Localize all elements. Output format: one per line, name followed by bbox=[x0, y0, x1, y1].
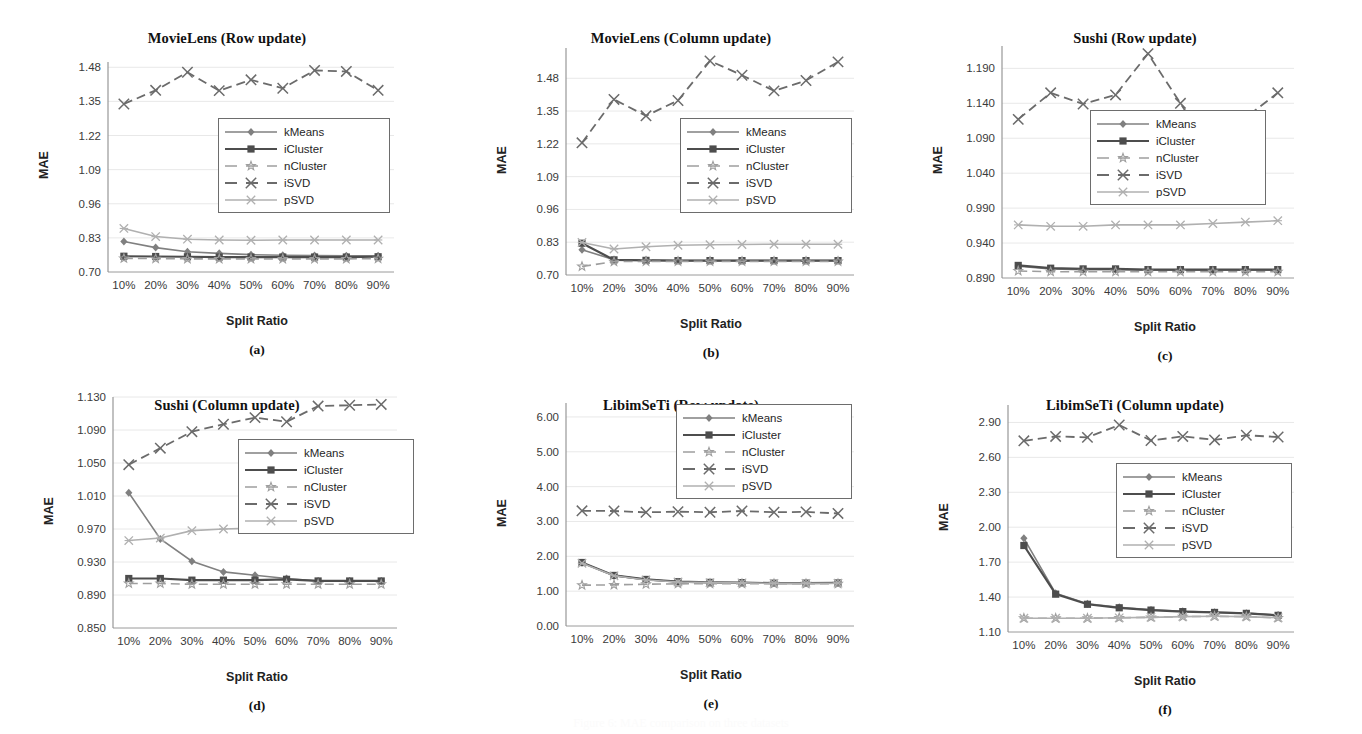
legend-label-kMeans: kMeans bbox=[737, 412, 782, 424]
y-tick-label: 1.48 bbox=[79, 61, 101, 73]
legend-d[interactable]: kMeansiClusternClusteriSVDpSVD bbox=[238, 439, 414, 534]
legend-item-pSVD[interactable]: pSVD bbox=[1095, 183, 1258, 200]
legend-item-kMeans[interactable]: kMeans bbox=[223, 123, 382, 140]
panel-letter-d: (d) bbox=[60, 698, 454, 714]
series-line-nCluster bbox=[129, 583, 381, 584]
legend-label-kMeans: kMeans bbox=[741, 126, 786, 138]
legend-item-iCluster[interactable]: iCluster bbox=[685, 140, 844, 157]
legend-item-iSVD[interactable]: iSVD bbox=[223, 174, 382, 191]
y-tick-label: 2.00 bbox=[979, 521, 1001, 533]
data-point-xbox-marker bbox=[1119, 187, 1127, 195]
legend-item-iSVD[interactable]: iSVD bbox=[685, 174, 844, 191]
data-point-square-marker bbox=[705, 431, 712, 438]
data-point-cross-marker bbox=[705, 56, 715, 66]
x-tick-label: 40% bbox=[208, 279, 231, 291]
legend-label-pSVD: pSVD bbox=[279, 194, 314, 206]
legend-swatch-nCluster-icon bbox=[681, 445, 737, 459]
legend-swatch-nCluster-icon bbox=[685, 159, 741, 173]
data-point-cross-marker bbox=[124, 459, 134, 469]
data-point-xbox-marker bbox=[738, 240, 746, 248]
data-point-xbox-marker bbox=[802, 240, 810, 248]
legend-item-iSVD[interactable]: iSVD bbox=[243, 495, 406, 512]
legend-item-iSVD[interactable]: iSVD bbox=[1121, 519, 1284, 536]
series-line-iSVD bbox=[124, 70, 378, 104]
legend-item-nCluster[interactable]: nCluster bbox=[223, 157, 382, 174]
legend-c[interactable]: kMeansiClusternClusteriSVDpSVD bbox=[1090, 110, 1266, 205]
legend-item-pSVD[interactable]: pSVD bbox=[223, 191, 382, 208]
legend-swatch-iSVD-icon bbox=[1121, 521, 1177, 535]
legend-item-iCluster[interactable]: iCluster bbox=[1121, 485, 1284, 502]
data-point-xbox-marker bbox=[1079, 222, 1087, 230]
legend-swatch-kMeans-icon bbox=[1121, 470, 1177, 484]
legend-item-nCluster[interactable]: nCluster bbox=[243, 478, 406, 495]
legend-item-iCluster[interactable]: iCluster bbox=[681, 426, 844, 443]
legend-swatch-kMeans-icon bbox=[223, 125, 279, 139]
legend-swatch-iSVD-icon bbox=[681, 462, 737, 476]
y-tick-label: 0.890 bbox=[77, 589, 106, 601]
data-point-cross-marker bbox=[1146, 435, 1156, 445]
chart-title-a: MovieLens (Row update) bbox=[0, 30, 454, 47]
data-point-xbox-marker bbox=[1115, 614, 1123, 622]
legend-item-iCluster[interactable]: iCluster bbox=[243, 461, 406, 478]
data-point-cross-marker bbox=[609, 94, 619, 104]
legend-item-nCluster[interactable]: nCluster bbox=[1095, 149, 1258, 166]
y-tick-label: 1.22 bbox=[79, 130, 101, 142]
data-point-xbox-marker bbox=[219, 525, 227, 533]
data-point-xbox-marker bbox=[1111, 221, 1119, 229]
legend-item-pSVD[interactable]: pSVD bbox=[681, 477, 844, 494]
x-axis-label-e: Split Ratio bbox=[514, 668, 908, 682]
data-point-cross-marker bbox=[833, 57, 843, 67]
legend-label-pSVD: pSVD bbox=[737, 480, 772, 492]
series-line-pSVD bbox=[582, 242, 838, 249]
legend-item-nCluster[interactable]: nCluster bbox=[685, 157, 844, 174]
legend-swatch-pSVD-icon bbox=[685, 193, 741, 207]
legend-e[interactable]: kMeansiClusternClusteriSVDpSVD bbox=[676, 404, 852, 499]
y-tick-label: 1.040 bbox=[966, 167, 995, 179]
legend-label-nCluster: nCluster bbox=[1177, 505, 1225, 517]
data-point-cross-marker bbox=[1110, 90, 1120, 100]
x-axis-label-a: Split Ratio bbox=[60, 314, 454, 328]
legend-f[interactable]: kMeansiClusternClusteriSVDpSVD bbox=[1116, 463, 1292, 558]
y-tick-label: 5.00 bbox=[537, 446, 559, 458]
y-tick-label: 2.60 bbox=[979, 451, 1001, 463]
legend-swatch-kMeans-icon bbox=[685, 125, 741, 139]
legend-item-iSVD[interactable]: iSVD bbox=[681, 460, 844, 477]
legend-item-nCluster[interactable]: nCluster bbox=[1121, 502, 1284, 519]
legend-item-kMeans[interactable]: kMeans bbox=[1121, 468, 1284, 485]
legend-item-pSVD[interactable]: pSVD bbox=[243, 512, 406, 529]
legend-item-pSVD[interactable]: pSVD bbox=[1121, 536, 1284, 553]
legend-item-iCluster[interactable]: iCluster bbox=[223, 140, 382, 157]
y-tick-label: 2.90 bbox=[979, 416, 1001, 428]
chart-panel-c: Sushi (Row update)MAESplit Ratio(c)0.890… bbox=[908, 0, 1362, 367]
x-tick-label: 30% bbox=[180, 635, 203, 647]
x-tick-label: 20% bbox=[144, 279, 167, 291]
legend-label-iCluster: iCluster bbox=[299, 464, 343, 476]
legend-label-kMeans: kMeans bbox=[279, 126, 324, 138]
legend-label-iCluster: iCluster bbox=[279, 143, 323, 155]
data-point-diamond-marker bbox=[188, 557, 195, 565]
legend-swatch-iSVD-icon bbox=[223, 176, 279, 190]
legend-b[interactable]: kMeansiClusternClusteriSVDpSVD bbox=[680, 118, 852, 213]
legend-item-kMeans[interactable]: kMeans bbox=[243, 444, 406, 461]
y-axis-label-a: MAE bbox=[37, 135, 51, 195]
legend-item-kMeans[interactable]: kMeans bbox=[681, 409, 844, 426]
legend-item-pSVD[interactable]: pSVD bbox=[685, 191, 844, 208]
x-tick-label: 30% bbox=[1076, 639, 1099, 651]
data-point-cross-marker bbox=[737, 70, 747, 80]
legend-item-nCluster[interactable]: nCluster bbox=[681, 443, 844, 460]
data-point-cross-marker bbox=[313, 401, 323, 411]
legend-label-iCluster: iCluster bbox=[737, 429, 781, 441]
y-tick-label: 1.40 bbox=[979, 591, 1001, 603]
x-tick-label: 10% bbox=[570, 282, 593, 294]
legend-label-iSVD: iSVD bbox=[1151, 169, 1182, 181]
x-tick-label: 80% bbox=[794, 282, 817, 294]
x-tick-label: 70% bbox=[307, 635, 330, 647]
legend-a[interactable]: kMeansiClusternClusteriSVDpSVD bbox=[218, 118, 390, 213]
legend-item-iSVD[interactable]: iSVD bbox=[1095, 166, 1258, 183]
data-point-xbox-marker bbox=[1083, 614, 1091, 622]
legend-item-iCluster[interactable]: iCluster bbox=[1095, 132, 1258, 149]
y-tick-label: 1.050 bbox=[77, 457, 106, 469]
legend-label-iSVD: iSVD bbox=[741, 177, 772, 189]
legend-item-kMeans[interactable]: kMeans bbox=[1095, 115, 1258, 132]
legend-item-kMeans[interactable]: kMeans bbox=[685, 123, 844, 140]
